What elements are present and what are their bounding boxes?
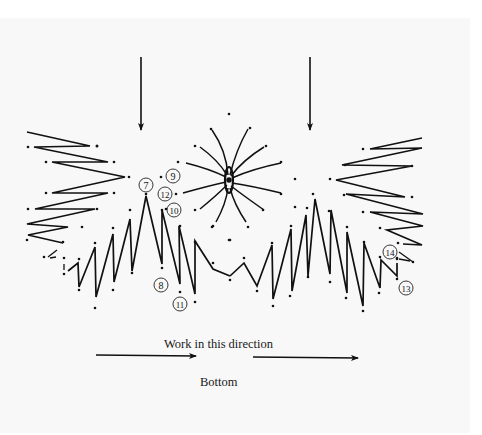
bottom-zigzag-left	[68, 196, 230, 297]
bottom-caption: Bottom	[200, 375, 238, 390]
right-arrow-right-icon	[253, 357, 358, 358]
label-14: 14	[386, 248, 396, 258]
direction-arrows	[96, 57, 358, 358]
label-10: 10	[170, 206, 180, 216]
bottom-zigzag-right	[230, 199, 397, 306]
label-13: 13	[402, 284, 412, 294]
label-11: 11	[176, 300, 185, 310]
label-9: 9	[171, 171, 176, 182]
right-arrow-left-icon	[96, 355, 196, 356]
left-zigzag	[27, 132, 125, 270]
direction-caption: Work in this direction	[164, 337, 273, 352]
stitch-diagram: 7 9 12 10 8 11 14 13	[0, 0, 482, 435]
center-star	[183, 129, 281, 222]
label-12: 12	[161, 190, 170, 200]
label-8: 8	[159, 280, 164, 291]
label-7: 7	[144, 180, 149, 191]
